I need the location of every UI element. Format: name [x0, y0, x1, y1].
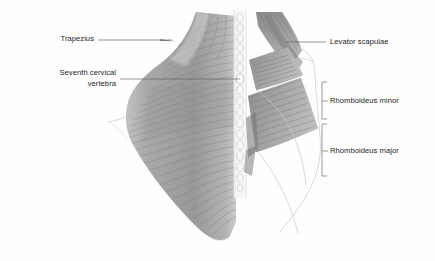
vertebral-column [234, 10, 246, 198]
label-trapezius: Trapezius [10, 34, 94, 45]
label-rhomboideus-major: Rhomboideus major [330, 146, 434, 157]
anatomy-figure: Trapezius Seventh cervical vertebra Leva… [0, 0, 435, 261]
label-rhomboideus-minor: Rhomboideus minor [330, 96, 434, 107]
label-seventh-cervical-vertebra: Seventh cervical vertebra [8, 68, 116, 89]
label-levator-scapulae: Levator scapulae [330, 37, 434, 48]
spinous-processes [237, 14, 244, 192]
